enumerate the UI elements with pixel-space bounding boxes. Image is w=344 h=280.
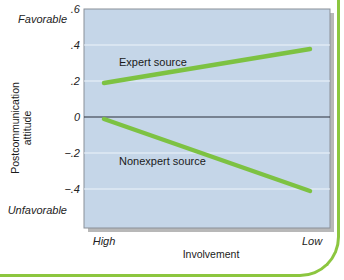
unfavorable-label: Unfavorable	[8, 204, 67, 216]
y-axis-title-line2: attitude	[21, 111, 33, 146]
y-tick-0.4: .4	[71, 39, 80, 51]
y-axis-title-line1: Postcommunication	[9, 82, 21, 174]
expert-source-label: Expert source	[119, 56, 187, 68]
favorable-label: Favorable	[18, 13, 67, 25]
nonexpert-source-label: Nonexpert source	[119, 155, 206, 167]
x-axis-title: Involvement	[183, 248, 240, 260]
y-tick-minus-0.2: −.2	[64, 147, 80, 159]
y-tick-0.6: .6	[71, 3, 81, 15]
x-tick-high: High	[93, 235, 116, 247]
y-tick-minus-0.4: −.4	[64, 183, 80, 195]
line-chart: .6 .4 .2 0 −.2 −.4 Favorable Unfavorable…	[0, 0, 344, 280]
y-tick-0.2: .2	[71, 75, 80, 87]
x-tick-low: Low	[302, 235, 323, 247]
y-tick-0: 0	[74, 111, 81, 123]
y-axis-title: Postcommunication attitude	[9, 82, 33, 174]
plot-area	[84, 9, 330, 228]
